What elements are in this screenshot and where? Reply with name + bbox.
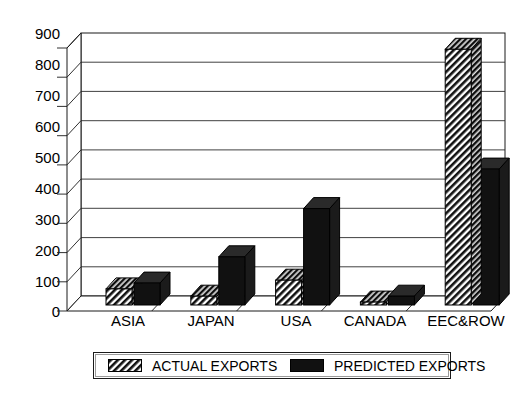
bar-eec-row-actual [445, 38, 481, 305]
x-tick-label-eec-row: EEC&ROW [412, 313, 520, 328]
y-tick-marks [57, 48, 67, 311]
bar-chart-figure: 900 800 700 600 500 400 300 200 100 0 [0, 0, 532, 397]
bar-asia-predicted [134, 272, 170, 305]
bar-usa-predicted [304, 198, 340, 305]
plot-svg [0, 0, 532, 397]
legend-swatch-predicted-exports [290, 359, 324, 372]
x-tick-label-asia: ASIA [88, 313, 168, 328]
legend-swatch-actual-exports [108, 359, 142, 372]
plot-area [0, 0, 532, 397]
x-tick-label-canada: CANADA [330, 313, 420, 328]
x-tick-label-usa: USA [256, 313, 336, 328]
chart-legend: ACTUAL EXPORTS PREDICTED EXPORTS [93, 352, 451, 379]
legend-label-predicted-exports: PREDICTED EXPORTS [334, 358, 485, 374]
axes-3d-frame [57, 33, 505, 311]
x-tick-label-japan: JAPAN [170, 313, 252, 328]
legend-label-actual-exports: ACTUAL EXPORTS [152, 358, 277, 374]
bar-japan-predicted [219, 246, 255, 305]
